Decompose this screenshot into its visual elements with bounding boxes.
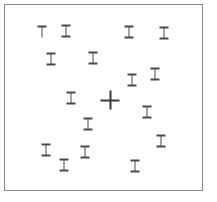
search-distractor-i-icon[interactable] [125,26,134,39]
i-stem [92,53,94,64]
search-field-border [4,4,203,191]
i-bottom-serif [81,157,90,159]
search-distractor-i-icon[interactable] [42,144,51,157]
search-distractor-i-icon[interactable] [143,106,152,119]
i-bottom-serif [89,63,98,65]
i-bottom-serif [125,37,134,39]
i-stem [70,93,72,104]
search-distractor-i-icon[interactable] [60,159,69,172]
i-bottom-serif [47,64,56,66]
i-bottom-serif [84,129,93,131]
i-stem [128,27,130,38]
i-stem [84,147,86,158]
search-distractor-i-icon[interactable] [81,146,90,159]
i-stem [160,136,162,147]
search-distractor-i-icon[interactable] [160,27,169,40]
i-stem [154,69,156,80]
search-distractor-i-icon[interactable] [131,160,140,173]
search-distractor-i-icon[interactable] [67,92,76,105]
search-distractor-i-icon[interactable] [151,68,160,81]
i-bottom-serif [60,170,69,172]
i-bottom-serif [128,85,137,87]
search-target-plus-icon[interactable] [101,91,120,110]
i-stem [50,54,52,65]
i-bottom-serif [151,79,160,81]
i-bottom-serif [160,38,169,40]
t-stem [41,27,43,38]
search-distractor-i-icon[interactable] [89,52,98,65]
i-stem [146,107,148,118]
i-stem [134,161,136,172]
i-bottom-serif [157,146,166,148]
search-distractor-i-icon[interactable] [47,53,56,66]
search-distractor-i-icon[interactable] [84,118,93,131]
search-distractor-i-icon[interactable] [157,135,166,148]
i-bottom-serif [143,117,152,119]
i-stem [131,75,133,86]
i-stem [163,28,165,39]
plus-horizontal-bar [101,99,120,101]
i-bottom-serif [42,155,51,157]
i-stem [45,145,47,156]
i-bottom-serif [67,103,76,105]
search-distractor-t-icon[interactable] [38,26,47,39]
search-distractor-i-icon[interactable] [62,25,71,38]
i-bottom-serif [62,36,71,38]
search-distractor-i-icon[interactable] [128,74,137,87]
i-stem [65,26,67,37]
i-bottom-serif [131,171,140,173]
visual-search-display [0,0,217,202]
i-stem [63,160,65,171]
i-stem [87,119,89,130]
